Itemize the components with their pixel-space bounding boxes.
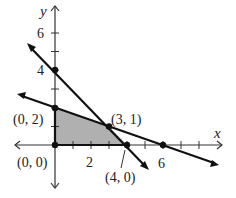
- leader-line: [121, 150, 125, 168]
- x-tick-label-2: 2: [86, 155, 93, 170]
- coordinate-graph: y x 6 4 2 6 (0, 2) (3, 1) (0, 0) (4, 0): [0, 0, 236, 198]
- vertex-label-3-1: (3, 1): [111, 112, 142, 128]
- y-axis-label: y: [38, 3, 47, 19]
- vertex-label-4-0: (4, 0): [105, 170, 136, 186]
- vertex-label-0-2: (0, 2): [13, 112, 44, 128]
- vertex-label-0-0: (0, 0): [17, 155, 48, 171]
- y-tick-label-6: 6: [37, 26, 44, 41]
- point-0-4: [52, 67, 58, 73]
- x-tick-label-6: 6: [158, 156, 165, 171]
- point-6-0: [160, 142, 166, 148]
- point-0-0: [52, 142, 58, 148]
- point-0-2: [52, 105, 58, 111]
- point-4-0: [124, 142, 130, 148]
- y-tick-label-4: 4: [37, 63, 44, 78]
- line-1: [27, 43, 149, 170]
- x-axis-label: x: [213, 125, 221, 141]
